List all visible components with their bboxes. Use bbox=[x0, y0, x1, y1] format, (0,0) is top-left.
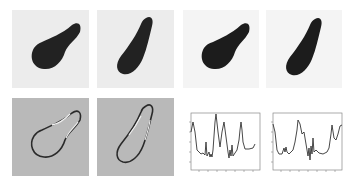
elongated-segmented-shape bbox=[266, 10, 342, 88]
pear-segmented-shape bbox=[183, 10, 259, 88]
panel-noisy-pear bbox=[12, 10, 89, 88]
panel-segmented-elongated bbox=[266, 10, 342, 88]
panel-edge-pear bbox=[12, 98, 89, 176]
panel-plot-1 bbox=[183, 112, 263, 184]
elongated-contour-edge bbox=[97, 98, 174, 176]
panel-noisy-elongated bbox=[97, 10, 174, 88]
pear-blob-shape bbox=[12, 10, 89, 88]
pear-contour-edge bbox=[12, 98, 89, 176]
signature-plot-2 bbox=[265, 112, 349, 184]
panel-plot-2 bbox=[265, 112, 349, 184]
panel-edge-elongated bbox=[97, 98, 174, 176]
elongated-blob-shape bbox=[97, 10, 174, 88]
panel-segmented-pear bbox=[183, 10, 259, 88]
signature-plot-1 bbox=[183, 112, 263, 184]
